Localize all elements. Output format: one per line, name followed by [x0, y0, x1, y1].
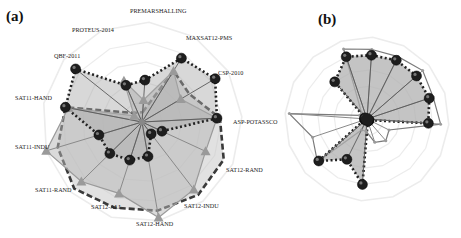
data-point-marker	[360, 129, 363, 132]
data-point-marker	[366, 50, 376, 60]
center-hub	[139, 119, 145, 125]
marker-highlight	[96, 132, 99, 135]
data-point-marker	[342, 154, 352, 164]
axis-label: QBF-2011	[54, 52, 80, 59]
axis-label: MAXSAT12-PMS	[186, 34, 233, 41]
radar-chart-a: PREMARSHALLINGMAXSAT12-PMSCSP-2010ASP-PO…	[6, 7, 278, 227]
data-point-marker	[314, 156, 324, 166]
marker-highlight	[393, 57, 396, 60]
data-point-marker	[140, 75, 150, 85]
marker-highlight	[316, 158, 319, 161]
marker-highlight	[359, 181, 362, 184]
axis-label: SAT12-HAND	[136, 220, 174, 227]
data-point-marker	[439, 123, 442, 126]
marker-highlight	[332, 79, 335, 82]
data-point-marker	[146, 129, 156, 139]
marker-highlight	[214, 115, 217, 118]
data-point-marker	[71, 64, 81, 74]
radar-figure: PREMARSHALLINGMAXSAT12-PMSCSP-2010ASP-PO…	[0, 0, 461, 238]
data-point-marker	[423, 118, 433, 128]
data-point-marker	[143, 151, 153, 161]
data-point-marker	[412, 71, 422, 81]
data-point-marker	[121, 80, 131, 90]
marker-highlight	[368, 52, 371, 55]
data-point-marker	[105, 149, 115, 159]
axis-label: ASP-POTASSCO	[233, 118, 278, 125]
data-point-marker	[384, 139, 387, 142]
marker-highlight	[123, 82, 126, 85]
data-point-marker	[341, 52, 351, 62]
panel-label: (b)	[318, 11, 336, 28]
marker-highlight	[344, 156, 347, 159]
axis-label: CSP-2010	[218, 69, 243, 76]
axis-label: PREMARSHALLING	[130, 7, 187, 14]
data-point-marker	[157, 126, 167, 136]
marker-highlight	[212, 76, 215, 79]
data-point-marker	[288, 112, 291, 115]
data-point-marker	[212, 113, 222, 123]
axis-label: SAT12-INDU	[184, 202, 219, 209]
data-point-marker	[342, 48, 345, 51]
marker-highlight	[107, 150, 110, 153]
axis-label: SAT11-HAND	[15, 94, 52, 101]
marker-highlight	[426, 95, 429, 98]
marker-highlight	[62, 104, 65, 107]
marker-highlight	[413, 73, 416, 76]
data-point-marker	[391, 55, 401, 65]
data-point-marker	[176, 53, 186, 63]
marker-highlight	[145, 153, 148, 156]
data-point-marker	[60, 102, 70, 112]
panel-label: (a)	[6, 8, 24, 25]
marker-highlight	[425, 120, 428, 123]
axis-label: SAT12-ALL	[91, 203, 122, 210]
axis-label: PROTEUS-2014	[72, 26, 114, 33]
data-point-marker	[357, 179, 367, 189]
marker-highlight	[142, 77, 145, 80]
axis-label: SAT11-INDU	[15, 143, 50, 150]
marker-highlight	[159, 128, 162, 131]
data-point-marker	[424, 93, 434, 103]
data-point-marker	[330, 77, 340, 87]
data-point-marker	[421, 69, 424, 72]
axis-label: SAT12-RAND	[226, 166, 263, 173]
data-point-marker	[94, 130, 104, 140]
radar-chart-b: (b)	[285, 11, 449, 201]
marker-highlight	[343, 54, 346, 57]
data-point-marker	[311, 136, 314, 139]
marker-highlight	[178, 55, 181, 58]
axis-label: SAT11-RAND	[35, 186, 72, 193]
data-point-marker	[365, 130, 368, 133]
data-point-marker	[388, 128, 391, 131]
center-hub	[361, 113, 373, 125]
data-point-marker	[125, 155, 135, 165]
marker-highlight	[148, 131, 151, 134]
data-point-marker	[373, 141, 376, 144]
marker-highlight	[127, 157, 130, 160]
marker-highlight	[72, 66, 75, 69]
